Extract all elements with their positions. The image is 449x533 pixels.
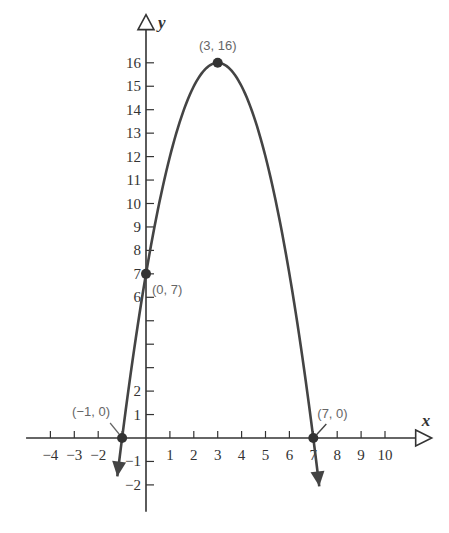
y-tick-label: 15 [126, 78, 141, 94]
point-label: (−1, 0) [72, 404, 110, 419]
x-tick-label: 2 [190, 447, 198, 463]
x-axis-arrow-icon [416, 430, 432, 446]
x-tick-label: 10 [378, 447, 393, 463]
data-point [141, 269, 151, 279]
point-label: (7, 0) [317, 406, 347, 421]
label-leader-line [316, 424, 326, 435]
x-tick-label: −3 [66, 447, 82, 463]
data-point [117, 433, 127, 443]
x-tick-label: 6 [286, 447, 294, 463]
y-tick-label: 16 [126, 55, 142, 71]
y-tick-label: 7 [134, 266, 142, 282]
y-tick-label: −2 [125, 477, 141, 493]
x-tick-label: 1 [166, 447, 174, 463]
x-tick-label: −4 [42, 447, 58, 463]
x-tick-label: −2 [90, 447, 106, 463]
curve-arrow-right-icon [311, 471, 325, 487]
x-tick-label: 4 [238, 447, 246, 463]
y-tick-label: 11 [127, 172, 141, 188]
y-tick-label: 9 [134, 219, 142, 235]
x-tick-label: 8 [333, 447, 341, 463]
y-axis-label: y [156, 13, 166, 32]
y-tick-label: 14 [126, 102, 142, 118]
x-tick-label: 3 [214, 447, 222, 463]
y-tick-label: 12 [126, 149, 141, 165]
label-leader-line [110, 423, 119, 434]
parabola-chart: −4−3−212345678910−2−11267891011121314151… [0, 0, 449, 533]
curve-arrow-left-icon [112, 461, 126, 477]
point-label: (0, 7) [152, 282, 182, 297]
y-axis-arrow-icon [138, 15, 154, 30]
point-label: (3, 16) [199, 38, 237, 53]
ticks: −4−3−212345678910−2−11267891011121314151… [42, 55, 392, 493]
x-tick-label: 9 [357, 447, 365, 463]
y-tick-label: 2 [134, 383, 142, 399]
data-point [213, 58, 223, 68]
y-tick-label: −1 [125, 453, 141, 469]
x-axis-label: x [421, 411, 431, 430]
y-tick-label: 1 [134, 407, 142, 423]
axes [26, 15, 432, 512]
y-tick-label: 8 [134, 242, 142, 258]
y-tick-label: 10 [126, 196, 141, 212]
y-tick-label: 13 [126, 125, 141, 141]
x-tick-label: 5 [262, 447, 270, 463]
